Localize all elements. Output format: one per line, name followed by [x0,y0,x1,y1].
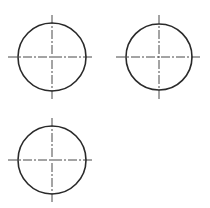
circle-top-right [116,15,201,99]
circle-bottom-left [8,118,94,202]
drawing-canvas [0,0,210,208]
circle-top-left [8,15,94,99]
